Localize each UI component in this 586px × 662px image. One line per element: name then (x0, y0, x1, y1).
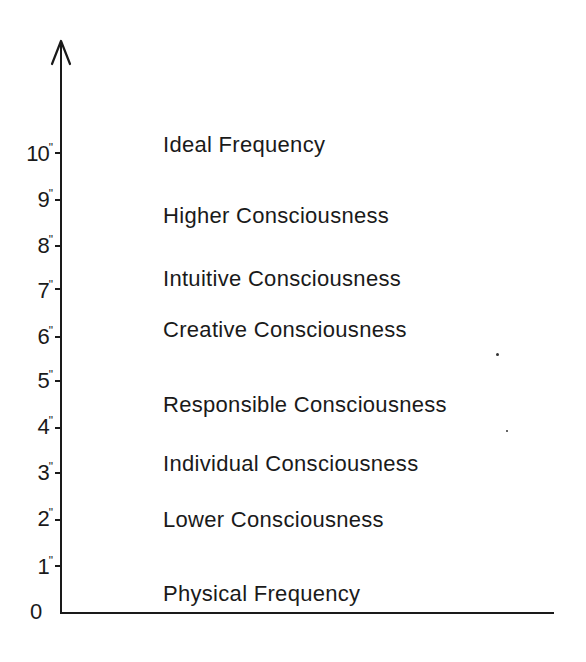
tick-label-3: 3" (2, 462, 52, 484)
tick-10 (55, 152, 61, 154)
level-higher-consciousness: Higher Consciousness (163, 203, 389, 229)
tick-label-6: 6" (2, 326, 52, 348)
level-creative-consciousness: Creative Consciousness (163, 317, 407, 343)
tick-2 (55, 519, 61, 521)
tick-6 (55, 336, 61, 338)
level-lower-consciousness: Lower Consciousness (163, 507, 384, 533)
level-physical-frequency: Physical Frequency (163, 581, 360, 607)
tick-9 (55, 199, 61, 201)
tick-label-7: 7" (2, 280, 52, 302)
tick-label-1: 1" (2, 556, 52, 578)
y-axis-line (60, 44, 62, 614)
tick-label-2: 2" (2, 508, 52, 530)
scan-speck (496, 353, 499, 356)
origin-label: 0 (30, 599, 42, 625)
tick-label-4: 4" (2, 416, 52, 438)
tick-label-8: 8" (2, 235, 52, 257)
tick-label-9: 9" (2, 189, 52, 211)
scan-speck (506, 430, 508, 432)
tick-7 (55, 288, 61, 290)
level-intuitive-consciousness: Intuitive Consciousness (163, 266, 401, 292)
tick-1 (55, 565, 61, 567)
tick-5 (55, 380, 61, 382)
tick-label-5: 5" (2, 370, 52, 392)
tick-8 (55, 245, 61, 247)
level-responsible-consciousness: Responsible Consciousness (163, 392, 447, 418)
x-axis-line (60, 612, 554, 614)
tick-4 (55, 427, 61, 429)
level-ideal-frequency: Ideal Frequency (163, 132, 325, 158)
level-individual-consciousness: Individual Consciousness (163, 451, 418, 477)
tick-label-10: 10" (2, 143, 52, 165)
tick-3 (55, 472, 61, 474)
